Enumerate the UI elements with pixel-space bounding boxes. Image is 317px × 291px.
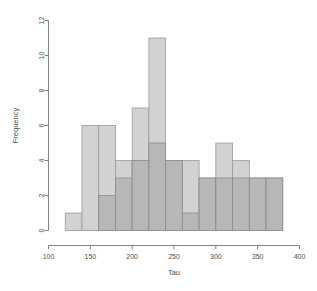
x-axis-tick-label: 100 xyxy=(43,253,55,260)
y-axis-tick-label: 0 xyxy=(38,228,45,232)
y-axis-tick-label: 10 xyxy=(38,52,45,60)
histogram-bar xyxy=(82,126,99,231)
x-axis-tick-label: 400 xyxy=(294,253,306,260)
x-axis-tick-label: 150 xyxy=(84,253,96,260)
y-axis-tick-label: 12 xyxy=(38,17,45,25)
histogram-bar xyxy=(233,178,250,231)
histogram-bar xyxy=(99,196,116,231)
histogram-bar xyxy=(132,161,149,231)
x-axis-tick-label: 200 xyxy=(126,253,138,260)
histogram-bar xyxy=(199,178,216,231)
y-axis-tick-label: 2 xyxy=(38,193,45,197)
figure-root: 024681012100150200250300350400TauFrequen… xyxy=(0,0,317,291)
histogram-bar xyxy=(182,213,199,231)
x-axis-tick-label: 250 xyxy=(168,253,180,260)
x-axis-tick-label: 350 xyxy=(252,253,264,260)
y-axis-tick-label: 4 xyxy=(38,158,45,162)
histogram-bar xyxy=(266,178,283,231)
histogram-bar xyxy=(216,178,233,231)
histogram-bar xyxy=(249,178,266,231)
y-axis-tick-label: 6 xyxy=(38,123,45,127)
y-axis-tick-label: 8 xyxy=(38,88,45,92)
histogram-bar xyxy=(115,178,132,231)
x-axis-title: Tau xyxy=(168,268,180,277)
histogram-bar xyxy=(149,143,166,231)
histogram-plot: 024681012100150200250300350400TauFrequen… xyxy=(0,0,317,291)
histogram-bar xyxy=(166,161,183,231)
histogram-svg: 024681012100150200250300350400TauFrequen… xyxy=(0,0,317,291)
x-axis-tick-label: 300 xyxy=(210,253,222,260)
y-axis-title: Frequency xyxy=(11,108,20,144)
histogram-bar xyxy=(65,213,82,231)
